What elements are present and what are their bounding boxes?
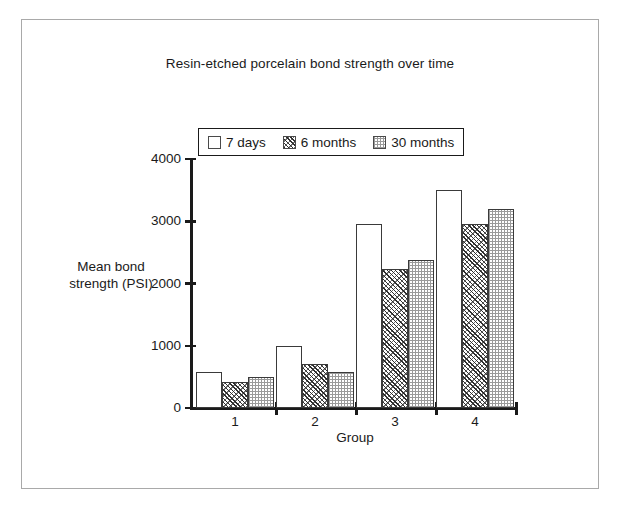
y-tick-3000 bbox=[185, 220, 196, 223]
y-tick-2000 bbox=[185, 282, 196, 285]
y-tick-label-3000: 3000 bbox=[137, 213, 181, 228]
bar-group-4-30-months bbox=[488, 209, 514, 408]
y-tick-1000 bbox=[185, 345, 196, 348]
bar-group-2-6-months bbox=[302, 364, 328, 408]
y-tick-label-4000: 4000 bbox=[137, 151, 181, 166]
bar-group-3-7-days bbox=[356, 224, 382, 408]
bar-group-2-7-days bbox=[276, 346, 302, 408]
x-tick-after-group-4 bbox=[515, 402, 518, 415]
bar-group-3-6-months bbox=[382, 269, 408, 408]
x-group-label-4: 4 bbox=[455, 414, 495, 429]
y-tick-0 bbox=[185, 407, 196, 410]
bar-group-4-7-days bbox=[436, 190, 462, 408]
bar-group-1-30-months bbox=[248, 377, 274, 408]
y-tick-label-2000: 2000 bbox=[137, 276, 181, 291]
bar-group-4-6-months bbox=[462, 224, 488, 408]
bar-group-1-6-months bbox=[222, 382, 248, 408]
bar-group-1-7-days bbox=[196, 372, 222, 408]
x-axis-title: Group bbox=[190, 430, 520, 445]
y-tick-label-0: 0 bbox=[137, 400, 181, 415]
x-group-label-1: 1 bbox=[215, 414, 255, 429]
y-tick-4000 bbox=[185, 158, 196, 161]
bar-group-2-30-months bbox=[328, 372, 354, 408]
x-group-label-2: 2 bbox=[295, 414, 335, 429]
y-tick-label-1000: 1000 bbox=[137, 338, 181, 353]
bar-group-3-30-months bbox=[408, 260, 434, 408]
x-group-label-3: 3 bbox=[375, 414, 415, 429]
